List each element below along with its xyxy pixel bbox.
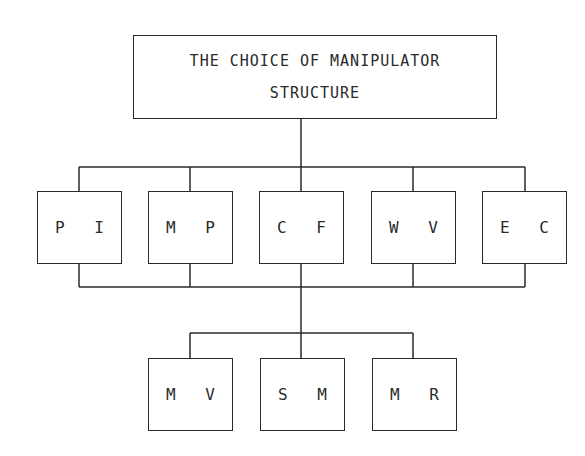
node-label: W V <box>389 218 448 237</box>
node-mv: M V <box>148 358 233 431</box>
node-cf: C F <box>259 191 344 264</box>
node-pi: P I <box>37 191 122 264</box>
node-mr: M R <box>372 358 457 431</box>
title-line-1: THE CHOICE OF MANIPULATOR <box>190 45 441 77</box>
node-label: M P <box>166 218 225 237</box>
node-sm: S M <box>260 358 345 431</box>
title-box: THE CHOICE OF MANIPULATOR STRUCTURE <box>133 35 497 119</box>
node-wv: W V <box>371 191 456 264</box>
node-label: P I <box>55 218 114 237</box>
node-label: M R <box>390 385 449 404</box>
diagram-canvas: THE CHOICE OF MANIPULATOR STRUCTURE P I … <box>0 0 585 456</box>
node-label: M V <box>166 385 225 404</box>
node-label: S M <box>278 385 337 404</box>
node-mp: M P <box>148 191 233 264</box>
title-line-2: STRUCTURE <box>270 77 360 109</box>
node-label: E C <box>500 218 559 237</box>
node-ec: E C <box>482 191 567 264</box>
node-label: C F <box>277 218 336 237</box>
